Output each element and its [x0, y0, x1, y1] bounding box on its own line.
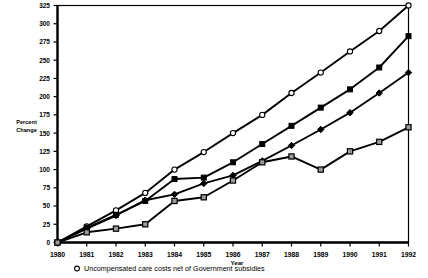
series-2-point: [406, 34, 411, 39]
series-2-point: [231, 160, 236, 165]
x-tick-label: 1985: [196, 251, 211, 258]
plot-frame: [58, 6, 409, 243]
x-tick-label: 1983: [138, 251, 153, 258]
series-2-point: [377, 65, 382, 70]
series-1-point: [406, 3, 411, 8]
x-tick-label: 1991: [372, 251, 387, 258]
series-2-point: [201, 175, 206, 180]
series-2-point: [289, 123, 294, 128]
series-line-4: [58, 127, 409, 242]
series-2-point: [172, 177, 177, 182]
series-line-1: [58, 6, 409, 243]
legend-label: Uncompensated care costs net of Governme…: [84, 264, 265, 273]
x-tick-label: 1986: [225, 251, 240, 258]
series-4-point: [113, 226, 118, 231]
series-2-point: [260, 142, 265, 147]
x-tick-label: 1984: [167, 251, 182, 258]
x-tick-label: 1980: [50, 251, 65, 258]
series-4-point: [260, 160, 265, 165]
y-tick-label: 150: [39, 130, 50, 137]
y-tick-label: 275: [39, 38, 50, 45]
y-tick-label: 100: [39, 166, 50, 173]
x-tick-label: 1982: [108, 251, 123, 258]
y-tick-label: 25: [43, 221, 51, 228]
series-line-2: [58, 36, 409, 242]
series-4-point: [172, 198, 177, 203]
series-1-point: [172, 167, 177, 172]
series-4-point: [318, 167, 323, 172]
y-tick-label: 0: [46, 239, 50, 246]
chart-figure: 0255075100125150175200225250275300325198…: [0, 0, 428, 278]
series-1-point: [201, 149, 206, 154]
series-3-point: [201, 180, 207, 186]
series-4-point: [84, 230, 89, 235]
series-1-point: [260, 112, 265, 117]
y-tick-label: 200: [39, 93, 50, 100]
y-tick-label: 125: [39, 148, 50, 155]
series-4-point: [201, 195, 206, 200]
series-4-point: [289, 154, 294, 159]
y-axis-title-line2: Change: [16, 127, 37, 133]
x-tick-label: 1981: [79, 251, 94, 258]
x-tick-label: 1987: [255, 251, 270, 258]
series-4-point: [143, 222, 148, 227]
y-tick-label: 75: [43, 184, 51, 191]
x-tick-label: 1990: [342, 251, 357, 258]
series-2-point: [348, 87, 353, 92]
y-tick-label: 50: [43, 202, 51, 209]
chart-canvas: 0255075100125150175200225250275300325198…: [0, 0, 428, 278]
series-4-point: [406, 125, 411, 130]
series-1-point: [318, 70, 323, 75]
x-tick-label: 1988: [284, 251, 299, 258]
series-4-point: [55, 240, 60, 245]
y-tick-label: 325: [39, 2, 50, 9]
y-tick-label: 300: [39, 20, 50, 27]
series-1-point: [377, 28, 382, 33]
x-tick-label: 1989: [313, 251, 328, 258]
y-tick-label: 175: [39, 111, 50, 118]
x-tick-label: 1992: [401, 251, 416, 258]
series-1-point: [230, 131, 235, 136]
legend-marker-open-circle: [75, 266, 80, 271]
series-4-point: [230, 178, 235, 183]
y-tick-label: 250: [39, 57, 50, 64]
series-1-point: [347, 49, 352, 54]
series-3-point: [171, 191, 177, 197]
series-1-point: [143, 190, 148, 195]
y-axis-title-line1: Percent: [16, 119, 37, 125]
series-1-point: [289, 90, 294, 95]
y-tick-label: 225: [39, 75, 50, 82]
series-2-point: [318, 105, 323, 110]
series-4-point: [377, 139, 382, 144]
series-4-point: [347, 149, 352, 154]
